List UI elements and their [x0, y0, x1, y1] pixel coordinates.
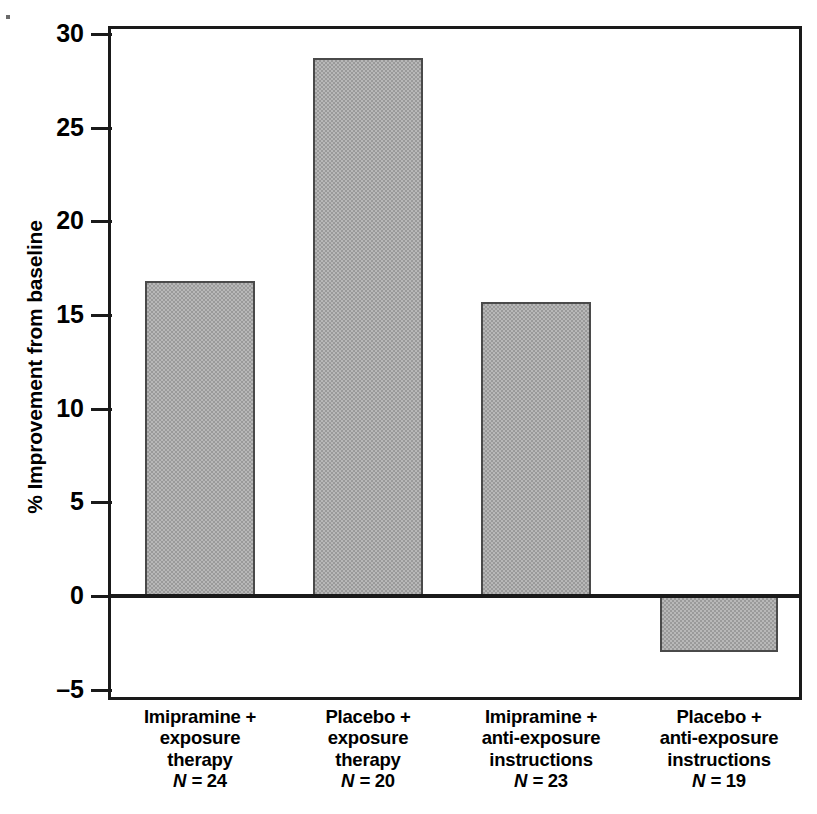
bar	[145, 281, 255, 596]
group-size-value: 19	[726, 770, 746, 791]
category-label-line: anti-exposure	[628, 727, 810, 748]
y-axis-tick	[91, 220, 112, 223]
bar	[660, 596, 778, 652]
y-axis-tick	[91, 689, 112, 692]
y-axis-tick-label: 25	[26, 115, 84, 140]
y-axis-tick	[91, 314, 112, 317]
x-axis-category-label: Placebo +anti-exposureinstructionsN = 19	[628, 706, 810, 791]
y-axis-tick	[91, 33, 112, 36]
category-label-line: Placebo +	[628, 706, 810, 727]
group-size-value: 20	[375, 770, 395, 791]
x-axis-category-label: Imipramine +exposuretherapyN = 24	[118, 706, 282, 791]
category-label-line: Imipramine +	[118, 706, 282, 727]
scan-artifact-speck	[6, 15, 10, 19]
group-size-label: N = 24	[118, 770, 282, 791]
y-axis-tick-label: 15	[26, 302, 84, 327]
group-size-value: 24	[207, 770, 227, 791]
y-axis-tick-label: –5	[26, 677, 84, 702]
y-axis-tick-label: 0	[26, 583, 84, 608]
category-label-line: exposure	[286, 727, 450, 748]
group-size-label: N = 23	[448, 770, 634, 791]
y-axis-tick-label: 10	[26, 396, 84, 421]
category-label-line: Placebo +	[286, 706, 450, 727]
category-label-line: therapy	[118, 749, 282, 770]
y-axis-tick-label: 20	[26, 208, 84, 233]
category-label-line: instructions	[448, 749, 634, 770]
y-axis-title: % Improvement from baseline	[23, 77, 47, 657]
zero-baseline	[108, 594, 802, 598]
y-axis-tick-label: 5	[26, 489, 84, 514]
y-axis-tick	[91, 501, 112, 504]
category-label-line: exposure	[118, 727, 282, 748]
bar	[481, 302, 591, 596]
group-size-value: 23	[548, 770, 568, 791]
group-size-label: N = 19	[628, 770, 810, 791]
y-axis-tick	[91, 127, 112, 130]
category-label-line: therapy	[286, 749, 450, 770]
y-axis-tick-label: 30	[26, 21, 84, 46]
x-axis-category-label: Imipramine +anti-exposureinstructionsN =…	[448, 706, 634, 791]
category-label-line: Imipramine +	[448, 706, 634, 727]
category-label-line: instructions	[628, 749, 810, 770]
category-label-line: anti-exposure	[448, 727, 634, 748]
group-size-label: N = 20	[286, 770, 450, 791]
bar-chart-figure: % Improvement from baseline 302520151050…	[0, 0, 817, 814]
x-axis-category-label: Placebo +exposuretherapyN = 20	[286, 706, 450, 791]
bar	[313, 58, 423, 596]
y-axis-tick	[91, 408, 112, 411]
